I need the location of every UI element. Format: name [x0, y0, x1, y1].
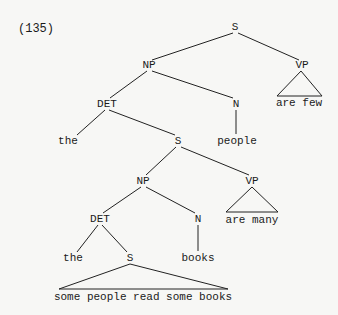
- syntax-tree-edges: [0, 0, 338, 315]
- node-det-2: DET: [90, 213, 110, 225]
- node-vp-1: VP: [295, 59, 308, 71]
- node-s-3: S: [127, 252, 134, 264]
- node-s-root: S: [232, 21, 239, 33]
- vp-2-terminal: are many: [226, 214, 279, 226]
- node-s-2: S: [175, 135, 182, 147]
- node-n-2: N: [195, 213, 202, 225]
- node-np-2: NP: [136, 175, 149, 187]
- word-books: books: [181, 252, 214, 264]
- node-n-1: N: [233, 98, 240, 110]
- node-vp-2: VP: [245, 175, 258, 187]
- vp-1-terminal: are few: [276, 97, 322, 109]
- word-people: people: [217, 135, 257, 147]
- s-3-terminal: some people read some books: [54, 291, 232, 303]
- node-np-1: NP: [142, 59, 155, 71]
- word-the-2: the: [63, 252, 83, 264]
- node-det-1: DET: [97, 98, 117, 110]
- word-the-1: the: [58, 135, 78, 147]
